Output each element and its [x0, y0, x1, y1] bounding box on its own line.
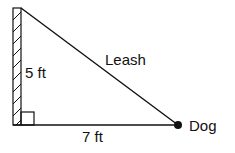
- leash-label: Leash: [105, 52, 146, 67]
- ground-length-label: 7 ft: [82, 129, 103, 144]
- wall-height-label: 5 ft: [25, 65, 46, 80]
- dog-label: Dog: [189, 118, 217, 133]
- dog-dot: [174, 121, 182, 129]
- right-angle-marker: [21, 112, 34, 125]
